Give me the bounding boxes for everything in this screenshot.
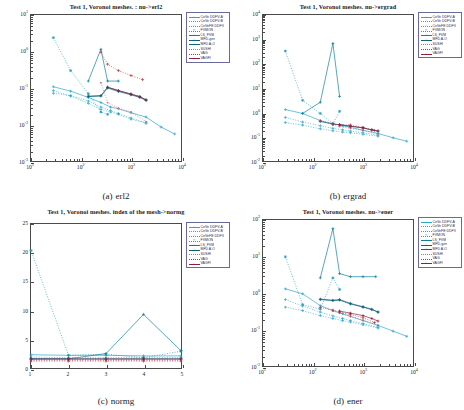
axis-tick	[263, 156, 265, 157]
series-ls-fvm	[30, 313, 183, 360]
legend-entry[interactable]: +VAGFI	[189, 56, 228, 61]
axis-tick	[263, 94, 265, 95]
axis-tick	[404, 159, 405, 161]
data-point	[362, 314, 365, 317]
series-ls-fvm	[301, 42, 341, 115]
x-tick-label: 104	[178, 164, 186, 170]
axis-tick	[263, 19, 265, 20]
axis-tick	[145, 365, 146, 368]
data-point	[301, 99, 304, 102]
data-point	[370, 128, 373, 131]
series-ls-fvm	[319, 227, 377, 279]
data-point	[67, 354, 70, 357]
data-point	[109, 106, 112, 109]
axis-tick	[306, 159, 307, 161]
axis-tick	[263, 339, 265, 340]
axis-tick	[263, 99, 265, 100]
y-tick-label: 100	[232, 290, 260, 296]
caption-label: erl2	[116, 191, 130, 201]
data-point	[69, 90, 72, 93]
x-tick-label: 3	[105, 371, 108, 377]
legend-entry[interactable]: +VAGFI	[189, 261, 228, 266]
legend-entry[interactable]: +VAGFI	[421, 261, 460, 266]
legend-entry[interactable]: +VAGFI	[421, 51, 460, 56]
y-tick-label: 10-3	[0, 159, 28, 165]
axis-tick	[263, 342, 265, 343]
caption-label: ergrad	[343, 191, 366, 201]
axis-tick	[31, 23, 33, 24]
axis-tick	[107, 365, 108, 368]
axis-tick	[311, 159, 312, 161]
legend-swatch-icon: +	[189, 261, 200, 266]
y-tick-label: 103	[232, 36, 260, 42]
data-point	[362, 126, 365, 129]
axis-tick	[263, 43, 265, 44]
axis-tick	[74, 159, 75, 161]
axis-tick	[31, 54, 33, 55]
panel-caption: (a)erl2	[0, 191, 232, 201]
data-point	[52, 92, 55, 95]
y-tick-label: 101	[232, 253, 260, 259]
axis-tick	[263, 106, 265, 107]
axis-tick	[263, 32, 265, 33]
series-fvmon	[52, 36, 109, 116]
y-tick-label: 10-1	[232, 134, 260, 140]
axis-tick	[356, 159, 357, 161]
y-tick-label: 5	[0, 337, 28, 343]
y-tick-label: 100	[0, 48, 28, 54]
series-ceve-ddfv-a	[52, 85, 176, 135]
data-point	[284, 121, 287, 124]
axis-tick	[400, 364, 401, 366]
axis-tick	[395, 159, 396, 161]
axis-tick	[79, 159, 80, 161]
series-cevefe-ddfv	[284, 306, 380, 330]
series-mfd-a-o	[319, 298, 380, 313]
axis-tick	[294, 364, 295, 366]
axis-tick	[106, 159, 107, 161]
y-tick-label: 102	[232, 216, 260, 222]
data-point	[52, 89, 55, 92]
data-point	[338, 95, 341, 98]
data-point	[69, 95, 72, 98]
axis-tick	[263, 268, 265, 269]
axis-tick	[31, 341, 34, 342]
data-point	[87, 102, 90, 105]
axis-tick	[389, 364, 390, 366]
legend-ener: +CeVe DDFV-A+CeVe DDFV-B+CeVeFE DDFV*FVM…	[418, 217, 462, 268]
axis-tick	[263, 259, 265, 260]
data-point	[52, 36, 55, 39]
caption-number: (a)	[103, 191, 113, 201]
data-point	[338, 299, 341, 302]
axis-tick	[364, 158, 365, 161]
axis-tick	[359, 364, 360, 366]
axis-tick	[69, 365, 70, 368]
axis-tick	[263, 320, 265, 321]
data-point	[377, 133, 379, 135]
series-line	[320, 229, 375, 278]
caption-label: ener	[347, 396, 363, 406]
axis-tick	[31, 19, 33, 20]
caption-number: (c)	[98, 396, 108, 406]
caption-number: (b)	[330, 191, 341, 201]
axis-tick	[263, 298, 265, 299]
data-point	[405, 335, 408, 338]
legend-normg: +CeVe DDFV-A+CeVe DDFV-B+CeVeFE DDFV*FVM…	[186, 222, 230, 268]
series-fvmon	[30, 249, 183, 359]
data-point	[338, 272, 341, 275]
axis-tick	[263, 335, 265, 336]
axis-tick	[263, 226, 265, 227]
data-point	[145, 98, 148, 101]
axis-tick	[175, 159, 176, 161]
series-vag	[99, 51, 144, 81]
data-point	[331, 317, 334, 320]
axis-tick	[31, 100, 33, 101]
data-point	[362, 130, 364, 132]
axis-tick	[263, 261, 265, 262]
axis-tick	[263, 82, 265, 83]
x-tick-label: 102	[77, 164, 85, 170]
axis-tick	[31, 30, 33, 31]
panel-caption: (b)ergrad	[232, 191, 464, 201]
axis-tick	[263, 127, 265, 128]
data-point	[301, 309, 304, 312]
axis-tick	[183, 365, 184, 368]
